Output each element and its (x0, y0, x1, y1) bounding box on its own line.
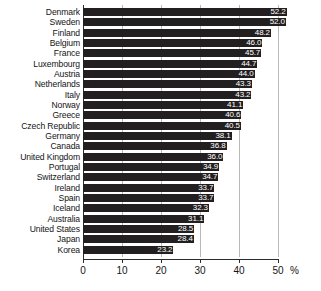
bar-value-label: 31.1 (188, 214, 204, 224)
category-label-greece: Greece (0, 110, 80, 120)
bar-row: 43.3 (83, 80, 252, 88)
bar-value-label: 52.2 (270, 7, 286, 17)
x-tick-mark-20 (161, 259, 162, 263)
bar-value-label: 43.3 (236, 79, 252, 89)
x-tick-label-50: 50 (263, 265, 293, 276)
bar-row: 40.6 (83, 111, 241, 119)
bar-row: 40.5 (83, 122, 241, 130)
x-tick-label-40: 40 (224, 265, 254, 276)
bar-row: 36.0 (83, 153, 223, 161)
x-tick-label-30: 30 (185, 265, 215, 276)
category-label-united-states: United States (0, 224, 80, 234)
category-label-france: France (0, 48, 80, 58)
bar (83, 122, 241, 130)
bar-row: 33.7 (83, 194, 214, 202)
bar (83, 80, 252, 88)
bar-value-label: 33.7 (198, 183, 214, 193)
category-label-germany: Germany (0, 131, 80, 141)
category-label-norway: Norway (0, 100, 80, 110)
bar-row: 41.1 (83, 101, 243, 109)
bar-value-label: 52.0 (270, 17, 286, 27)
x-tick-mark-0 (83, 259, 84, 263)
category-axis: DenmarkSwedenFinlandBelgiumFranceLuxembo… (0, 8, 80, 257)
x-tick-label-10: 10 (107, 265, 137, 276)
x-tick-mark-40 (239, 259, 240, 263)
bar (83, 70, 255, 78)
bar (83, 142, 227, 150)
bar (83, 204, 209, 212)
bar-value-label: 44.7 (241, 59, 257, 69)
bar-value-label: 36.0 (207, 152, 223, 162)
bar-row: 34.7 (83, 173, 218, 181)
x-axis-line (83, 259, 279, 260)
bar-row: 44.0 (83, 70, 255, 78)
bar-row: 32.3 (83, 204, 209, 212)
bar (83, 184, 214, 192)
plot-area: 52.252.048.246.045.744.744.043.343.241.1… (83, 8, 278, 257)
bar (83, 39, 262, 47)
category-label-denmark: Denmark (0, 7, 80, 17)
bar (83, 8, 287, 16)
bar-value-label: 41.1 (227, 100, 243, 110)
bar (83, 18, 286, 26)
bar-value-label: 34.7 (202, 172, 218, 182)
bar-row: 45.7 (83, 49, 261, 57)
bar-value-label: 33.7 (198, 193, 214, 203)
bar-value-label: 38.1 (215, 131, 231, 141)
category-label-canada: Canada (0, 141, 80, 151)
category-label-portugal: Portugal (0, 162, 80, 172)
bar-value-label: 40.5 (225, 121, 241, 131)
bar (83, 194, 214, 202)
category-label-czech-republic: Czech Republic (0, 121, 80, 131)
bar-row: 38.1 (83, 132, 232, 140)
category-label-ireland: Ireland (0, 183, 80, 193)
category-label-italy: Italy (0, 90, 80, 100)
bar-value-label: 46.0 (246, 38, 262, 48)
category-label-sweden: Sweden (0, 17, 80, 27)
bar-row: 44.7 (83, 60, 257, 68)
bar-value-label: 48.2 (255, 28, 271, 38)
category-label-austria: Austria (0, 69, 80, 79)
bar-value-label: 32.3 (193, 203, 209, 213)
category-label-netherlands: Netherlands (0, 79, 80, 89)
category-label-switzerland: Switzerland (0, 172, 80, 182)
bar (83, 111, 241, 119)
bar-row: 23.2 (83, 246, 173, 254)
bar-row: 43.2 (83, 91, 251, 99)
category-label-united-kingdom: United Kingdom (0, 152, 80, 162)
x-tick-mark-10 (122, 259, 123, 263)
bar (83, 91, 251, 99)
bar (83, 215, 204, 223)
bar-row: 46.0 (83, 39, 262, 47)
category-label-iceland: Iceland (0, 203, 80, 213)
bar-row: 34.9 (83, 163, 219, 171)
bar-value-label: 43.2 (235, 90, 251, 100)
x-tick-mark-30 (200, 259, 201, 263)
x-tick-label-0: 0 (68, 265, 98, 276)
bar-value-label: 34.9 (203, 162, 219, 172)
x-axis-unit-label: % (290, 265, 299, 276)
bar-value-label: 40.6 (225, 110, 241, 120)
category-label-belgium: Belgium (0, 38, 80, 48)
bar-chart: DenmarkSwedenFinlandBelgiumFranceLuxembo… (0, 0, 321, 291)
bar (83, 29, 271, 37)
bar (83, 153, 223, 161)
bar-value-label: 23.2 (157, 245, 173, 255)
bar (83, 101, 243, 109)
category-label-finland: Finland (0, 28, 80, 38)
bar-row: 31.1 (83, 215, 204, 223)
x-tick-label-20: 20 (146, 265, 176, 276)
bar-row: 28.4 (83, 235, 194, 243)
category-label-japan: Japan (0, 234, 80, 244)
bar-value-label: 45.7 (245, 48, 261, 58)
bar-row: 28.5 (83, 225, 194, 233)
category-label-korea: Korea (0, 245, 80, 255)
bar-value-label: 36.8 (210, 141, 226, 151)
bar (83, 132, 232, 140)
bar-row: 36.8 (83, 142, 227, 150)
bar-value-label: 28.4 (178, 234, 194, 244)
bar-row: 52.2 (83, 8, 287, 16)
bar-value-label: 44.0 (238, 69, 254, 79)
bar-value-label: 28.5 (178, 224, 194, 234)
gridline-50 (278, 5, 279, 257)
